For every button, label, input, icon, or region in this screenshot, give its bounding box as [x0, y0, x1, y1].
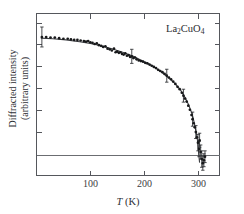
x-tick-label-100: 100 [83, 178, 98, 189]
x-tick-label-300: 300 [191, 178, 206, 189]
left-axis-ticks [37, 24, 42, 156]
right-axis-ticks [215, 24, 220, 156]
sample-label-sub2: 4 [201, 27, 205, 36]
x-axis-title-unit: (K) [122, 196, 140, 208]
bottom-axis-ticks [91, 171, 199, 176]
sample-label-cuo: CuO [181, 23, 201, 34]
top-axis-ticks [91, 14, 199, 19]
fit-curve [41, 38, 200, 162]
sample-label: La2CuO4 [166, 23, 205, 36]
figure-container: 100 200 300 T (K) La2CuO4 Diffracted int… [0, 0, 244, 214]
error-bars [40, 27, 206, 170]
sample-label-la: La [166, 23, 177, 34]
x-tick-label-200: 200 [137, 178, 152, 189]
x-axis-title: T (K) [116, 196, 140, 208]
plot-svg: 100 200 300 T (K) La2CuO4 [0, 0, 244, 214]
data-points [41, 36, 207, 165]
